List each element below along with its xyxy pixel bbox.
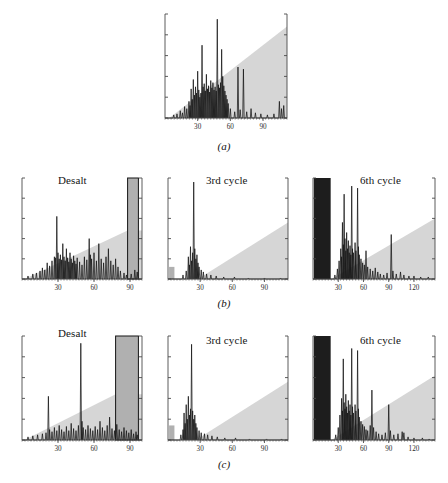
panel-b-right-title: 6th cycle: [360, 174, 401, 186]
svg-text:60: 60: [90, 284, 98, 292]
panel-b-middle: 306090: [158, 172, 296, 297]
panel-label-c: (c): [0, 458, 448, 470]
svg-text:30: 30: [54, 284, 62, 292]
panel-b-left-title: Desalt: [58, 174, 87, 186]
svg-text:60: 60: [360, 284, 368, 292]
panel-c-right: 306090120: [303, 330, 443, 458]
svg-text:90: 90: [259, 123, 267, 131]
svg-text:90: 90: [261, 445, 269, 453]
svg-text:90: 90: [126, 445, 134, 453]
svg-text:30: 30: [197, 284, 205, 292]
panel-label-b: (b): [0, 297, 448, 309]
panel-c-left: 306090: [12, 330, 150, 458]
panel-b-middle-plot: 306090: [158, 172, 296, 297]
svg-text:60: 60: [229, 284, 237, 292]
panel-b-left-plot: 306090: [12, 172, 150, 297]
svg-text:90: 90: [126, 284, 134, 292]
panel-c-right-title: 6th cycle: [360, 334, 401, 346]
panel-b-middle-title: 3rd cycle: [206, 174, 248, 186]
svg-text:30: 30: [54, 445, 62, 453]
panel-c-left-plot: 306090: [12, 330, 150, 458]
svg-text:120: 120: [409, 284, 420, 292]
panel-c-left-title: Desalt: [58, 327, 87, 339]
svg-text:30: 30: [335, 445, 343, 453]
panel-b-right: 306090120: [303, 172, 443, 297]
svg-text:30: 30: [194, 123, 202, 131]
panel-label-a: (a): [0, 140, 448, 152]
svg-text:90: 90: [385, 284, 393, 292]
svg-text:120: 120: [409, 445, 420, 453]
svg-text:30: 30: [335, 284, 343, 292]
svg-text:60: 60: [227, 123, 235, 131]
svg-text:60: 60: [360, 445, 368, 453]
panel-c-right-plot: 306090120: [303, 330, 443, 458]
svg-text:90: 90: [261, 284, 269, 292]
panel-b-left: 306090: [12, 172, 150, 297]
panel-a-plot: 306090: [155, 8, 295, 136]
svg-text:30: 30: [197, 445, 205, 453]
panel-b-right-plot: 306090120: [303, 172, 443, 297]
svg-text:60: 60: [229, 445, 237, 453]
svg-text:60: 60: [90, 445, 98, 453]
panel-a: 306090: [155, 8, 295, 136]
panel-c-middle-plot: 306090: [158, 330, 296, 458]
panel-c-middle-title: 3rd cycle: [206, 334, 248, 346]
svg-text:90: 90: [385, 445, 393, 453]
panel-c-middle: 306090: [158, 330, 296, 458]
chromatogram-figure: 306090 (a) 306090 Desalt 306090 3rd cycl…: [0, 0, 448, 483]
